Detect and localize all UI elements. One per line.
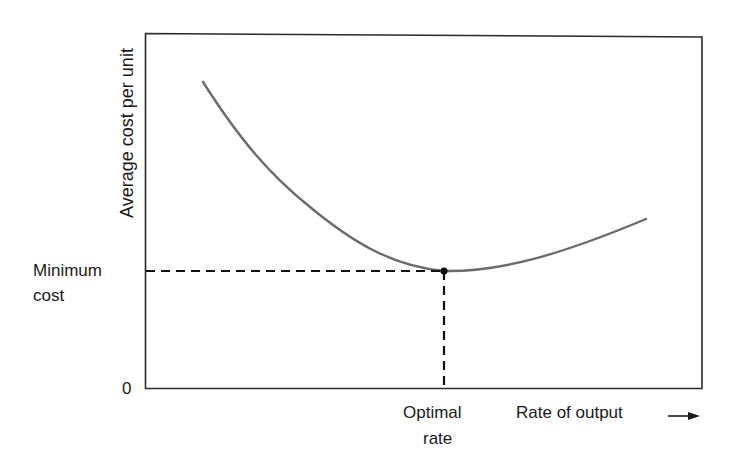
x-axis-label: Rate of output bbox=[516, 403, 623, 423]
optimal-rate-label-line2: rate bbox=[423, 429, 452, 449]
chart-canvas bbox=[0, 0, 734, 465]
x-axis-arrow-icon bbox=[668, 412, 700, 420]
minimum-point bbox=[440, 267, 447, 274]
optimal-rate-label-line1: Optimal bbox=[403, 403, 462, 423]
plot-frame bbox=[146, 34, 703, 389]
minimum-cost-label-line1: Minimum bbox=[33, 261, 102, 281]
y-axis-label: Average cost per unit bbox=[117, 48, 138, 218]
average-cost-curve bbox=[203, 82, 646, 271]
zero-tick-label: 0 bbox=[122, 379, 131, 399]
minimum-cost-label-line2: cost bbox=[33, 286, 64, 306]
